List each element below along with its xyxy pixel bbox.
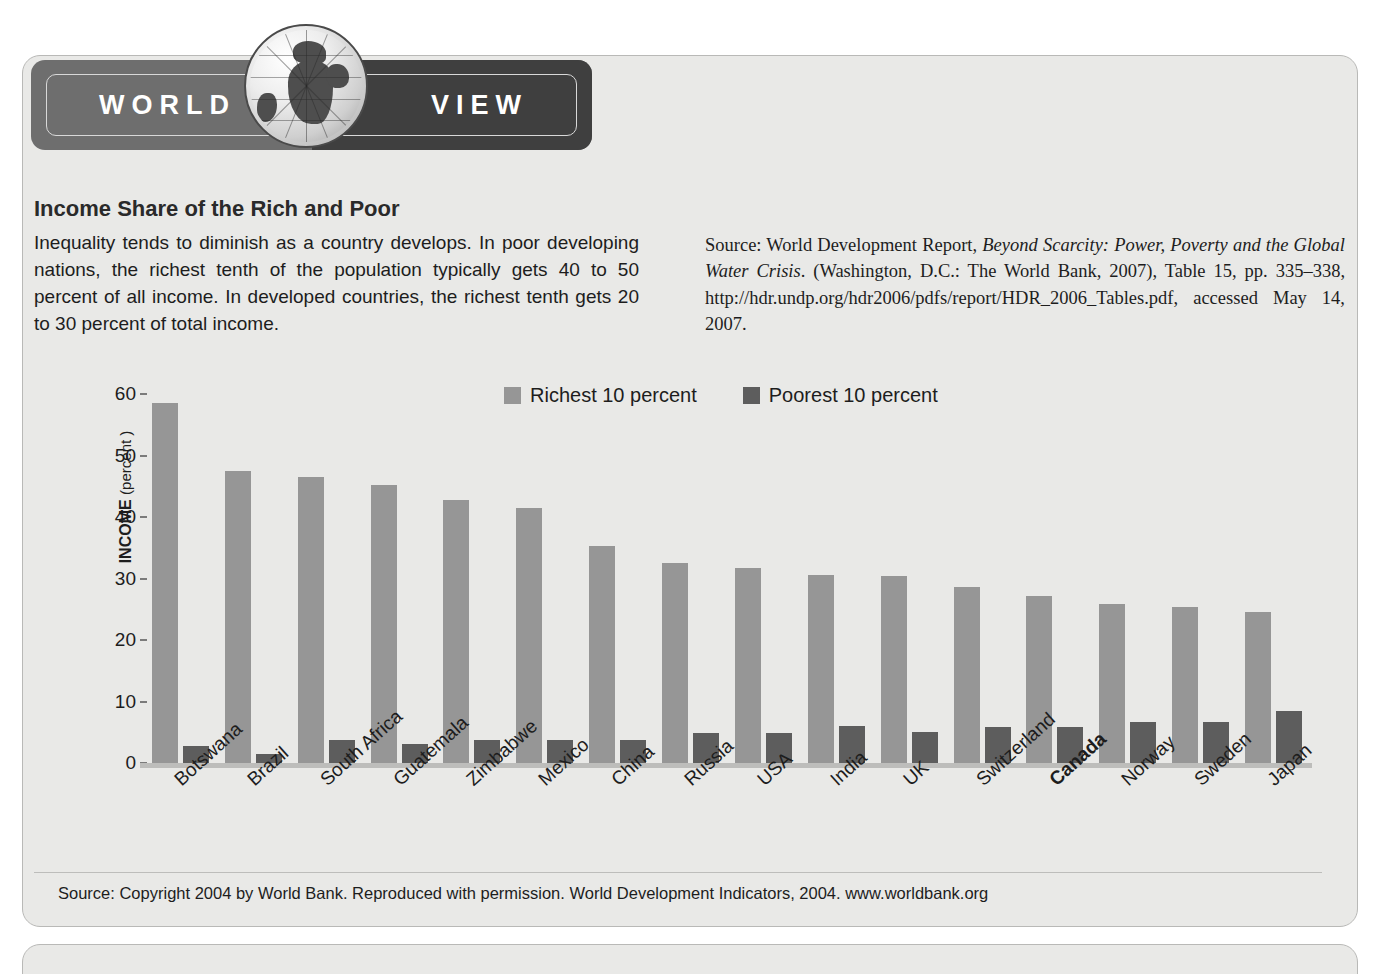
bar-group	[873, 394, 946, 763]
bar-richest	[662, 563, 688, 763]
income-share-bar-chart: Richest 10 percent Poorest 10 percent IN…	[34, 370, 1324, 890]
bar-group	[508, 394, 581, 763]
plot-area: 6050403020100	[144, 394, 1310, 763]
bar-richest	[225, 471, 251, 763]
bar-groups	[144, 394, 1310, 763]
bar-group	[727, 394, 800, 763]
source-citation: Source: World Development Report, Beyond…	[705, 232, 1345, 337]
page-root: WORLD VIEW Income Share of the Rich and …	[0, 0, 1382, 974]
next-content-panel	[22, 944, 1358, 974]
source-tail: . (Washington, D.C.: The World Bank, 200…	[705, 261, 1345, 334]
y-tick-label-50: 50	[88, 445, 136, 467]
y-tick-label-0: 0	[88, 752, 136, 774]
bar-richest	[735, 568, 761, 763]
globe-graticule	[250, 30, 362, 142]
bar-group	[363, 394, 436, 763]
intro-paragraph: Inequality tends to diminish as a countr…	[34, 230, 639, 338]
y-tick-label-40: 40	[88, 506, 136, 528]
bar-group	[144, 394, 217, 763]
y-tick-label-20: 20	[88, 629, 136, 651]
y-tick-label-30: 30	[88, 568, 136, 590]
bar-richest	[298, 477, 324, 763]
bar-richest	[808, 575, 834, 763]
bar-group	[946, 394, 1019, 763]
bar-group	[290, 394, 363, 763]
bar-group	[436, 394, 509, 763]
y-tick-label-60: 60	[88, 383, 136, 405]
footer-divider	[34, 872, 1322, 873]
globe-sphere	[250, 30, 362, 142]
bar-group	[1164, 394, 1237, 763]
bar-richest	[1172, 607, 1198, 763]
bar-richest	[954, 587, 980, 764]
bar-group	[1091, 394, 1164, 763]
bar-group	[217, 394, 290, 763]
page-title: Income Share of the Rich and Poor	[34, 196, 400, 222]
bar-richest	[881, 576, 907, 763]
bar-group	[654, 394, 727, 763]
bar-group	[1019, 394, 1092, 763]
globe-icon	[244, 24, 368, 148]
source-lead: Source: World Development Report,	[705, 235, 982, 255]
bar-group	[581, 394, 654, 763]
banner-word-view: VIEW	[431, 90, 528, 121]
bar-richest	[152, 403, 178, 763]
footer-source-text: Source: Copyright 2004 by World Bank. Re…	[58, 884, 988, 903]
bar-group	[1237, 394, 1310, 763]
bar-group	[800, 394, 873, 763]
bar-richest	[589, 546, 615, 763]
banner-word-world: WORLD	[99, 90, 236, 121]
y-tick-label-10: 10	[88, 691, 136, 713]
